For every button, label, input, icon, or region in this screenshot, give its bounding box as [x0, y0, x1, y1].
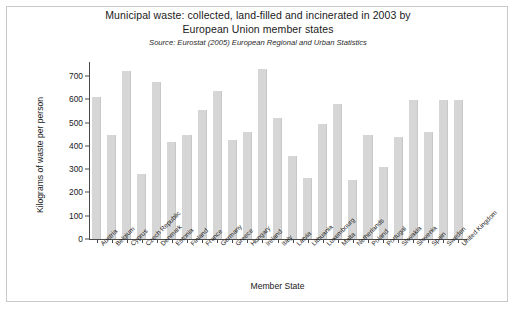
bar-slot	[421, 62, 436, 239]
x-tick-mark	[308, 240, 309, 243]
chart-bar	[182, 135, 191, 239]
chart-bar	[348, 180, 357, 239]
x-tick-mark	[112, 240, 113, 243]
chart-bar	[394, 137, 403, 239]
y-tick-label: 500	[43, 118, 83, 128]
bar-slot	[240, 62, 255, 239]
bar-slot	[360, 62, 375, 239]
bar-slot	[315, 62, 330, 239]
bar-slot	[225, 62, 240, 239]
chart-bar	[363, 135, 372, 239]
bar-slot	[210, 62, 225, 239]
chart-bar	[258, 69, 267, 239]
x-tick-label: United Kingdom	[460, 209, 498, 247]
y-tick-label: 200	[43, 187, 83, 197]
x-axis-tick-labels: AustriaBelgiumCyprusCzech RepublicDenmar…	[89, 240, 466, 284]
plot-wrapper: Kilograms of waste per person 0100200300…	[0, 0, 516, 310]
bar-slot	[300, 62, 315, 239]
bar-slot	[270, 62, 285, 239]
y-tick-label: 700	[43, 71, 83, 81]
bar-slot	[391, 62, 406, 239]
chart-bar	[409, 100, 418, 239]
x-tick-mark	[97, 240, 98, 243]
chart-bar	[122, 71, 131, 239]
bar-slot	[255, 62, 270, 239]
x-axis-label: Member State	[89, 281, 466, 291]
chart-bar	[439, 100, 448, 239]
x-tick-mark	[293, 240, 294, 243]
chart-bar	[198, 110, 207, 239]
bar-slot	[406, 62, 421, 239]
chart-bar	[454, 100, 463, 239]
bar-slot	[89, 62, 104, 239]
bar-slot	[345, 62, 360, 239]
bar-slot	[451, 62, 466, 239]
chart-bar	[92, 97, 101, 239]
x-tick-mark	[278, 240, 279, 243]
chart-bar	[318, 124, 327, 239]
bar-slot	[119, 62, 134, 239]
bar-slot	[134, 62, 149, 239]
bar-slot	[149, 62, 164, 239]
bar-slot	[104, 62, 119, 239]
chart-bar	[152, 82, 161, 239]
bar-slot	[376, 62, 391, 239]
chart-bar	[333, 104, 342, 239]
y-tick-label: 0	[43, 234, 83, 244]
chart-bar	[213, 91, 222, 239]
chart-bar	[243, 132, 252, 239]
chart-bar	[107, 135, 116, 239]
bar-slot	[179, 62, 194, 239]
bar-slot	[285, 62, 300, 239]
chart-bar	[424, 132, 433, 239]
y-tick-label: 100	[43, 211, 83, 221]
bars-container	[89, 62, 466, 239]
y-tick-label: 400	[43, 141, 83, 151]
y-tick-label: 600	[43, 94, 83, 104]
chart-bar	[288, 156, 297, 239]
bar-slot	[195, 62, 210, 239]
chart-bar	[273, 118, 282, 239]
bar-slot	[436, 62, 451, 239]
y-tick-label: 300	[43, 164, 83, 174]
bar-slot	[330, 62, 345, 239]
